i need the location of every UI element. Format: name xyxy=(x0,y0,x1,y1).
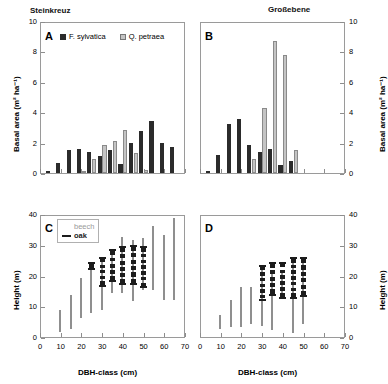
bar-f-sylvatica xyxy=(160,143,164,173)
oak-upper-cap xyxy=(99,257,106,259)
oak-range-segment xyxy=(110,251,115,255)
oak-lower-cap xyxy=(290,297,297,299)
oak-lower-cap xyxy=(119,283,126,285)
x-axis-tick-label: 40 xyxy=(276,342,290,351)
beech-range-line xyxy=(240,287,242,327)
oak-range-segment xyxy=(110,264,115,268)
beech-range-line xyxy=(250,287,252,324)
legend-label-q-petraea: Q. petraea xyxy=(129,32,164,41)
bar-f-sylvatica xyxy=(289,161,293,173)
y-axis-tick-label: 40 xyxy=(349,210,362,219)
x-axis-tick-label: 50 xyxy=(297,342,311,351)
y-axis-tick xyxy=(41,246,45,247)
y-axis-tick xyxy=(41,113,45,114)
bar-f-sylvatica xyxy=(227,124,231,173)
legend-swatch-beech-icon xyxy=(60,34,66,40)
bar-q-petraea xyxy=(252,159,256,173)
oak-upper-cap xyxy=(109,249,116,251)
beech-range-line xyxy=(80,278,82,318)
beech-range-line xyxy=(152,226,154,291)
x-axis-tick xyxy=(262,333,263,337)
y-axis-tick-label: 2 xyxy=(24,139,37,148)
oak-lower-cap xyxy=(99,285,106,287)
x-axis-tick xyxy=(324,169,325,173)
oak-range-segment xyxy=(280,275,285,279)
x-axis-tick-label: 70 xyxy=(178,342,192,351)
bar-q-petraea xyxy=(294,150,298,173)
oak-range-segment xyxy=(270,283,275,287)
x-axis-tick xyxy=(304,333,305,337)
oak-range-segment xyxy=(120,267,125,271)
y-axis-tick xyxy=(340,113,344,114)
panel-a-y-axis-title: Basal area (m² ha⁻¹) xyxy=(12,76,21,152)
beech-range-line xyxy=(90,263,92,314)
oak-range-segment xyxy=(280,281,285,285)
x-axis-tick xyxy=(241,333,242,337)
oak-range-segment xyxy=(291,270,296,274)
oak-range-segment xyxy=(280,270,285,274)
beech-range-line xyxy=(173,218,175,299)
bar-q-petraea xyxy=(134,153,138,173)
y-axis-tick-label: 20 xyxy=(24,272,37,281)
bar-f-sylvatica xyxy=(216,155,220,173)
legend-row-beech: beech xyxy=(62,222,94,231)
oak-range-segment xyxy=(120,254,125,258)
panel-c-label: C xyxy=(45,222,53,234)
x-axis-tick xyxy=(81,333,82,337)
oak-range-segment xyxy=(291,276,296,280)
oak-range-segment xyxy=(120,248,125,252)
oak-upper-cap xyxy=(119,246,126,248)
y-axis-tick xyxy=(41,22,45,23)
beech-range-line xyxy=(163,235,165,300)
bar-f-sylvatica xyxy=(108,150,112,173)
oak-range-segment xyxy=(270,264,275,268)
bar-f-sylvatica xyxy=(56,163,60,173)
bar-q-petraea xyxy=(92,159,96,173)
bar-f-sylvatica xyxy=(206,171,210,173)
x-axis-tick xyxy=(200,169,201,173)
y-axis-tick xyxy=(340,22,344,23)
y-axis-tick-label: 4 xyxy=(24,108,37,117)
oak-range-segment xyxy=(270,277,275,281)
oak-range-segment xyxy=(291,282,296,286)
oak-lower-cap xyxy=(259,299,266,301)
oak-upper-cap xyxy=(259,265,266,267)
oak-dash-icon xyxy=(62,235,71,237)
x-axis-tick xyxy=(40,169,41,173)
bar-f-sylvatica xyxy=(139,131,143,173)
oak-range-segment xyxy=(301,272,306,276)
x-axis-tick-label: 60 xyxy=(317,342,331,351)
bar-f-sylvatica xyxy=(247,145,251,173)
x-axis-tick-label: 0 xyxy=(33,342,47,351)
oak-range-segment xyxy=(141,271,146,275)
x-axis-tick xyxy=(185,333,186,337)
y-axis-tick xyxy=(340,277,344,278)
y-axis-tick-label: 10 xyxy=(349,302,362,311)
x-axis-tick xyxy=(345,333,346,337)
oak-upper-cap xyxy=(269,262,276,264)
bar-f-sylvatica xyxy=(77,149,81,173)
y-axis-tick-label: 10 xyxy=(349,17,362,26)
x-axis-tick xyxy=(40,333,41,337)
legend-label-f-sylvatica: F. sylvatica xyxy=(69,32,106,41)
x-axis-tick-label: 20 xyxy=(234,342,248,351)
y-axis-tick xyxy=(41,338,45,339)
x-axis-tick xyxy=(185,169,186,173)
panel-b-title: Großebene xyxy=(268,5,310,14)
panel-a-title: Steinkreuz xyxy=(30,6,70,15)
bar-f-sylvatica xyxy=(46,171,50,173)
x-axis-tick-label: 10 xyxy=(214,342,228,351)
oak-range-segment xyxy=(100,265,105,268)
panel-d-label: D xyxy=(205,222,213,234)
y-axis-tick xyxy=(41,83,45,84)
oak-range-segment xyxy=(100,276,105,279)
oak-range-segment xyxy=(280,287,285,291)
x-axis-tick xyxy=(123,333,124,337)
y-axis-tick-label: 10 xyxy=(24,17,37,26)
y-axis-tick xyxy=(340,52,344,53)
y-axis-tick xyxy=(340,215,344,216)
oak-range-segment xyxy=(291,265,296,269)
x-axis-tick xyxy=(221,333,222,337)
y-axis-tick-label: 30 xyxy=(349,241,362,250)
x-axis-tick xyxy=(304,169,305,173)
